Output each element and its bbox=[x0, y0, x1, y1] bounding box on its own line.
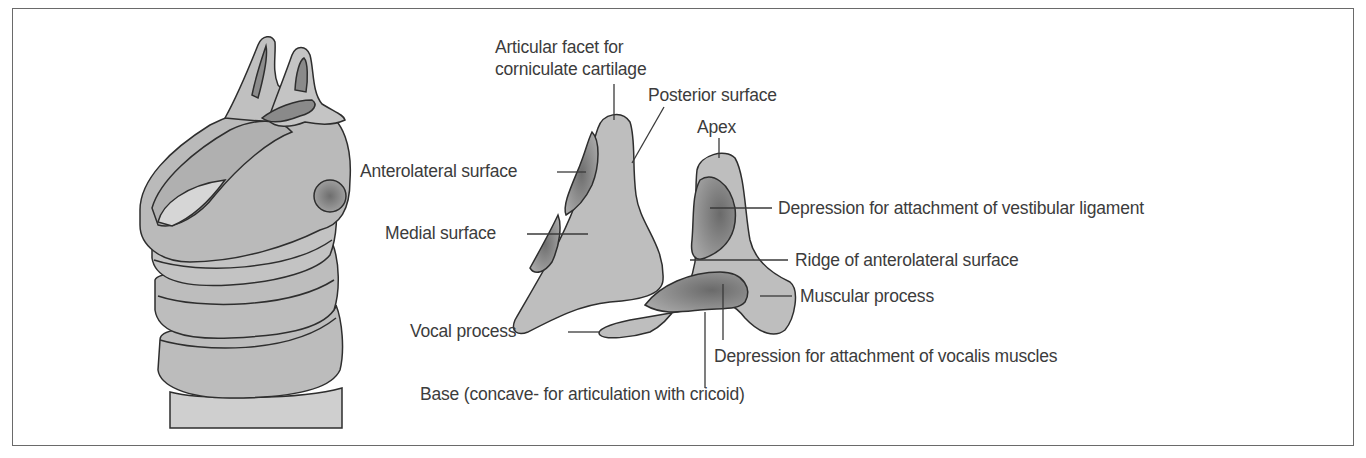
label-base: Base (concave- for articulation with cri… bbox=[420, 384, 745, 405]
label-anterolateral-surface: Anterolateral surface bbox=[360, 161, 517, 182]
label-articular-facet-line2: corniculate cartilage bbox=[495, 59, 646, 80]
label-apex: Apex bbox=[697, 117, 736, 138]
label-muscular-process: Muscular process bbox=[800, 286, 934, 307]
label-depression-vestibular-ligament: Depression for attachment of vestibular … bbox=[778, 198, 1144, 219]
label-articular-facet-line1: Articular facet for bbox=[495, 37, 623, 58]
larynx-illustration bbox=[140, 37, 350, 428]
label-medial-surface: Medial surface bbox=[385, 223, 496, 244]
label-vocal-process: Vocal process bbox=[410, 321, 516, 342]
label-posterior-surface: Posterior surface bbox=[648, 85, 777, 106]
label-depression-vocalis-muscles: Depression for attachment of vocalis mus… bbox=[714, 346, 1057, 367]
label-ridge-anterolateral-surface: Ridge of anterolateral surface bbox=[795, 250, 1019, 271]
